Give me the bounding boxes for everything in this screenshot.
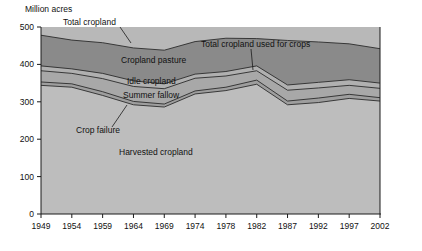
x-tick-label: 1954: [62, 221, 81, 231]
label-summer-fallow: Summer fallow: [123, 90, 180, 100]
label-crop-failure: Crop failure: [76, 125, 120, 135]
y-axis-title: Million acres: [25, 4, 72, 14]
y-tick-label: 200: [20, 134, 34, 144]
x-tick-label: 1964: [124, 221, 143, 231]
label-total-cropland: Total cropland: [63, 17, 116, 27]
label-harvested-cropland: Harvested cropland: [119, 147, 193, 157]
x-tick-label: 1987: [278, 221, 297, 231]
x-tick-label: 1949: [32, 221, 51, 231]
label-total-cropland-used-for-crops: Total cropland used for crops: [201, 39, 310, 49]
x-tick-label: 1997: [340, 221, 359, 231]
y-tick-label: 0: [29, 209, 34, 219]
x-tick-label: 1992: [309, 221, 328, 231]
label-idle-cropland: Idle cropland: [127, 76, 176, 86]
y-tick-label: 100: [20, 172, 34, 182]
label-cropland-pasture: Cropland pasture: [121, 55, 186, 65]
x-tick-label: 1969: [155, 221, 174, 231]
y-tick-label: 500: [20, 22, 34, 32]
y-tick-label: 400: [20, 59, 34, 69]
x-tick-label: 1978: [216, 221, 235, 231]
x-tick-label: 1982: [247, 221, 266, 231]
series-band: [41, 84, 380, 214]
y-tick-label: 300: [20, 97, 34, 107]
chart-container: 0100200300400500 19491954195919641969197…: [0, 0, 422, 251]
stacked-area-chart: 0100200300400500 19491954195919641969197…: [0, 0, 422, 251]
x-tick-label: 2002: [371, 221, 390, 231]
x-tick-label: 1974: [186, 221, 205, 231]
x-tick-label: 1959: [93, 221, 112, 231]
